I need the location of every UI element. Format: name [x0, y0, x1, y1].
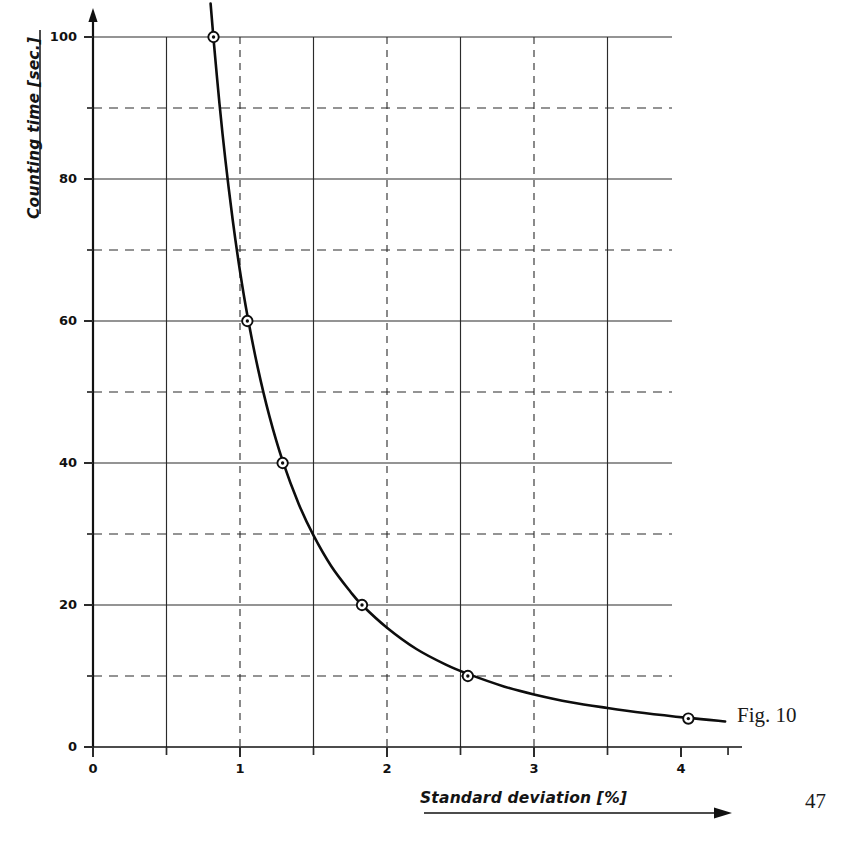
y-axis-tick-marks — [84, 37, 93, 747]
horizontal-gridlines-solid — [93, 37, 672, 605]
y-tick-label: 20 — [37, 597, 77, 612]
data-point-center — [360, 603, 363, 606]
y-tick-label: 40 — [37, 455, 77, 470]
data-point-center — [212, 35, 215, 38]
data-point-center — [281, 461, 284, 464]
y-tick-label: 60 — [37, 313, 77, 328]
y-tick-label: 100 — [37, 29, 77, 44]
x-label-arrowhead — [714, 808, 732, 819]
data-point-center — [246, 319, 249, 322]
data-point-center — [466, 674, 469, 677]
x-tick-label: 4 — [669, 761, 693, 776]
page-number: 47 — [805, 789, 826, 814]
x-tick-label: 1 — [228, 761, 252, 776]
figure-root: Counting time [sec.] Standard deviation … — [0, 0, 849, 862]
x-axis-tick-marks — [93, 747, 728, 757]
x-tick-label: 0 — [81, 761, 105, 776]
x-axis-label: Standard deviation [%] — [420, 789, 627, 807]
x-axis-label-underline — [424, 808, 732, 819]
chart-canvas — [0, 0, 849, 862]
data-point-markers — [208, 32, 693, 724]
figure-caption: Fig. 10 — [737, 703, 797, 728]
x-tick-label: 2 — [375, 761, 399, 776]
y-tick-label: 0 — [37, 739, 77, 754]
data-point-center — [687, 717, 690, 720]
axis-lines — [88, 8, 742, 747]
data-curve — [211, 4, 726, 722]
y-axis-arrowhead — [88, 8, 97, 22]
horizontal-gridlines-dashed — [93, 108, 672, 676]
x-tick-label: 3 — [522, 761, 546, 776]
y-tick-label: 80 — [37, 171, 77, 186]
y-axis-label: Counting time [sec.] — [25, 39, 43, 219]
